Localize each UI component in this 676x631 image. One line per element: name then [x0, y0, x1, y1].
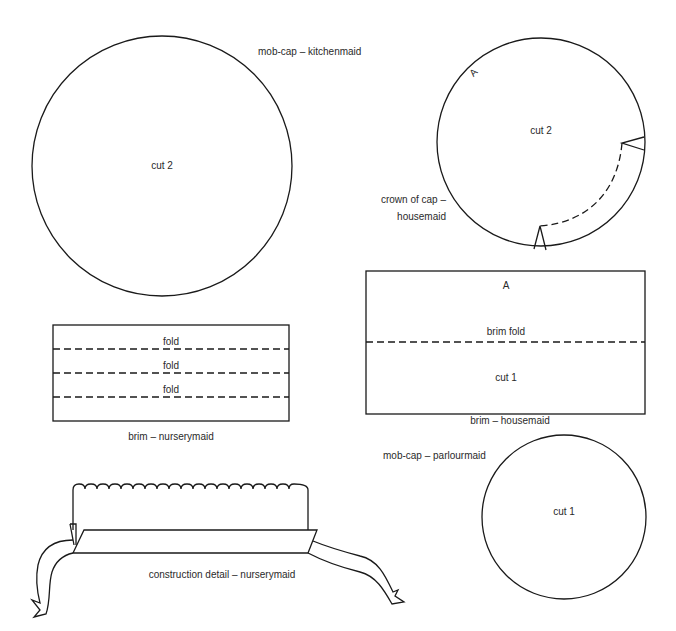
housemaid-brim-fold-label: brim fold	[487, 326, 525, 337]
parlourmaid-mobcap-circle	[482, 435, 646, 599]
housemaid-brim-title: brim – housemaid	[470, 415, 549, 426]
parlourmaid-title: mob-cap – parlourmaid	[383, 450, 486, 461]
housemaid-crown-title-2: housemaid	[397, 211, 446, 222]
nurserymaid-fold-label-2: fold	[163, 360, 179, 371]
nurserymaid-brim-piece: fold fold fold brim – nurserymaid	[53, 325, 289, 442]
kitchenmaid-mobcap-piece: cut 2 mob-cap – kitchenmaid	[32, 36, 361, 296]
crown-notch-right	[622, 137, 644, 150]
housemaid-brim-piece: A brim fold cut 1 brim – housemaid	[366, 271, 645, 426]
housemaid-brim-mark-a: A	[503, 280, 510, 291]
pattern-sheet: cut 2 mob-cap – kitchenmaid cut 2 A crow…	[0, 0, 676, 631]
nurserymaid-brim-title: brim – nurserymaid	[128, 431, 214, 442]
housemaid-brim-cut-label: cut 1	[495, 372, 517, 383]
ribbon-right	[308, 541, 404, 604]
nurserymaid-fold-label-1: fold	[163, 336, 179, 347]
housemaid-crown-cut-label: cut 2	[530, 125, 552, 136]
ribbon-left	[32, 540, 73, 617]
housemaid-crown-title-1: crown of cap –	[381, 194, 446, 205]
kitchenmaid-title: mob-cap – kitchenmaid	[258, 46, 361, 57]
kitchenmaid-cut-label: cut 2	[151, 160, 173, 171]
parlourmaid-cut-label: cut 1	[553, 506, 575, 517]
housemaid-crown-mark-a: A	[467, 66, 480, 79]
crown-dashed-stitch-line	[540, 143, 622, 226]
cap-body-scalloped	[73, 484, 308, 530]
construction-title: construction detail – nurserymaid	[149, 569, 296, 580]
nurserymaid-construction-piece: construction detail – nurserymaid	[32, 484, 404, 617]
parlourmaid-mobcap-piece: cut 1 mob-cap – parlourmaid	[383, 435, 646, 599]
cap-band	[73, 530, 317, 553]
housemaid-crown-piece: cut 2 A crown of cap – housemaid	[381, 38, 645, 250]
nurserymaid-fold-label-3: fold	[163, 384, 179, 395]
